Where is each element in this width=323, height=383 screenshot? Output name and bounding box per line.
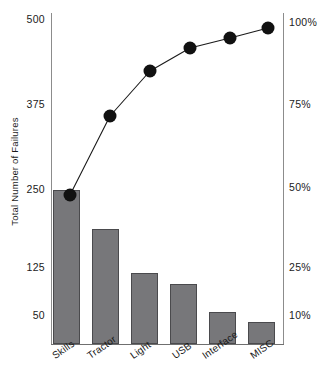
data-point-marker [224, 32, 237, 45]
pareto-chart: Total Number of Failures 500 375 250 125… [0, 0, 323, 383]
data-point-marker [64, 189, 77, 202]
data-point-marker [104, 110, 117, 123]
data-point-marker [144, 65, 157, 78]
data-point-marker [184, 42, 197, 55]
data-point-marker [262, 22, 275, 35]
cumulative-line [0, 0, 323, 383]
